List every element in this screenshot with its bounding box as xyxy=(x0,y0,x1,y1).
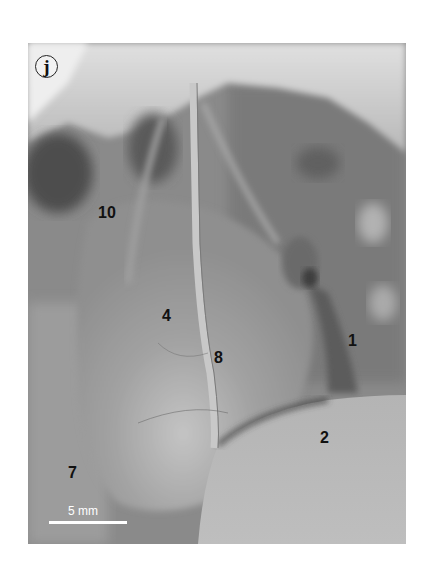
label-1: 1 xyxy=(348,333,357,349)
scale-bar xyxy=(49,521,127,524)
label-2: 2 xyxy=(320,430,329,446)
photo-tonal-regions xyxy=(28,43,406,544)
label-8: 8 xyxy=(214,350,223,366)
dissection-photo: j 10 4 8 1 2 7 5 mm xyxy=(28,43,406,544)
label-4: 4 xyxy=(162,308,171,324)
label-10: 10 xyxy=(98,205,116,221)
label-7: 7 xyxy=(68,465,77,481)
scale-bar-label: 5 mm xyxy=(68,504,98,518)
panel-letter-badge: j xyxy=(35,55,58,78)
